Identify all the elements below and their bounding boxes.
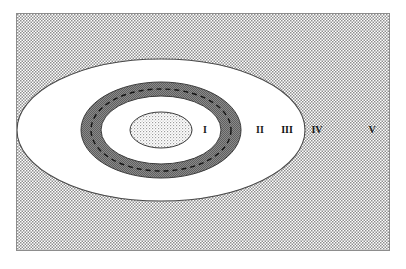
zone-label-v: V: [368, 125, 375, 135]
zone-label-i: I: [203, 125, 207, 135]
zone-label-ii: II: [256, 125, 264, 135]
zone-label-iii: III: [281, 125, 293, 135]
diagram-plate: I II III IV V: [16, 13, 390, 251]
zone-1-ellipse: [130, 112, 192, 148]
figure-root: I II III IV V: [0, 0, 406, 269]
zone-label-iv: IV: [311, 125, 322, 135]
